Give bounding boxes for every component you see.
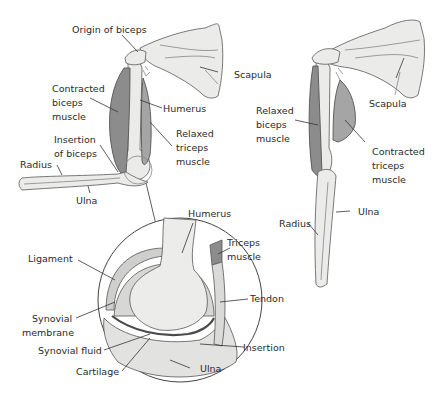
label-synovial-membrane-line2: membrane — [22, 327, 74, 338]
left-scapula — [140, 24, 223, 98]
label-relaxed-biceps-line1: Relaxed — [256, 105, 294, 116]
label-contracted-triceps-line1: Contracted — [372, 146, 425, 157]
label-triceps-line2: muscle — [227, 251, 261, 262]
label-insertion-of-biceps-line2: of biceps — [54, 148, 97, 159]
label-cartilage: Cartilage — [76, 366, 119, 377]
left-contracted-biceps — [110, 68, 130, 173]
label-joint-humerus: Humerus — [188, 208, 231, 219]
label-contracted-biceps-line3: muscle — [52, 111, 86, 122]
label-insertion: Insertion — [243, 342, 285, 353]
left-forearm — [19, 172, 148, 190]
label-right-ulna: Ulna — [358, 206, 379, 217]
label-contracted-biceps-line2: biceps — [52, 97, 83, 108]
left-relaxed-triceps — [141, 78, 151, 165]
label-relaxed-triceps-line3: muscle — [176, 156, 210, 167]
label-ligament: Ligament — [28, 253, 73, 264]
label-contracted-triceps-line2: triceps — [372, 160, 404, 171]
label-contracted-biceps-line1: Contracted — [52, 83, 105, 94]
right-contracted-triceps — [333, 80, 355, 142]
arm-muscles-diagram: Origin of biceps Scapula Contracted bice… — [0, 0, 440, 393]
label-relaxed-triceps-line2: triceps — [176, 142, 208, 153]
right-forearm — [315, 169, 336, 287]
label-left-radius: Radius — [20, 159, 52, 170]
label-left-ulna: Ulna — [76, 195, 97, 206]
label-right-scapula: Scapula — [369, 98, 407, 109]
label-synovial-fluid: Synovial fluid — [38, 345, 102, 356]
label-relaxed-biceps-line2: biceps — [256, 119, 287, 130]
label-insertion-of-biceps-line1: Insertion — [54, 134, 96, 145]
label-tendon: Tendon — [249, 293, 284, 304]
label-synovial-membrane-line1: Synovial — [32, 313, 72, 324]
label-triceps-line1: Triceps — [226, 237, 260, 248]
label-joint-ulna: Ulna — [200, 363, 221, 374]
label-left-humerus: Humerus — [163, 103, 206, 114]
label-origin-of-biceps: Origin of biceps — [72, 24, 147, 35]
label-left-scapula: Scapula — [234, 69, 272, 80]
label-relaxed-biceps-line3: muscle — [256, 133, 290, 144]
label-contracted-triceps-line3: muscle — [372, 174, 406, 185]
label-relaxed-triceps-line1: Relaxed — [176, 128, 214, 139]
label-right-radius: Radius — [279, 218, 311, 229]
